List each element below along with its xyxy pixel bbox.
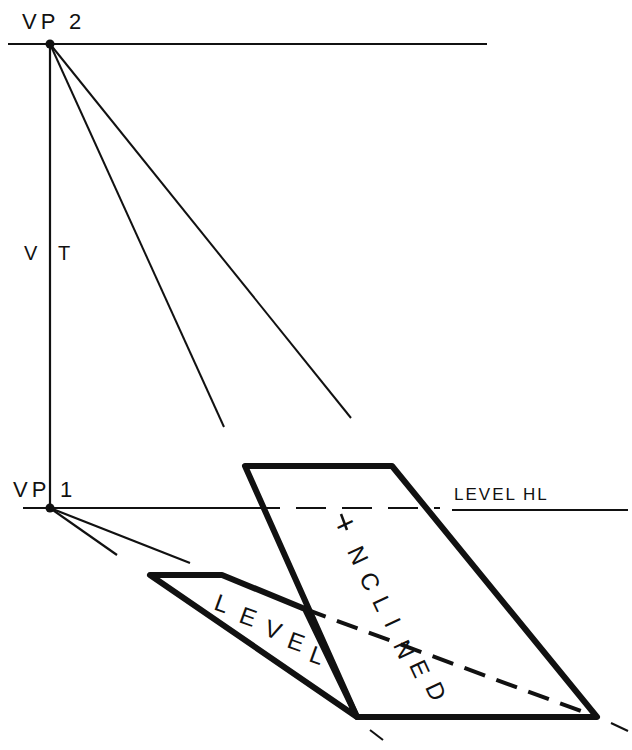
level-hl-label: LEVEL HL (454, 485, 549, 504)
vt-label-t: T (58, 242, 70, 264)
level-letter-2: E (236, 601, 260, 632)
perspective-diagram: VP 2 V T LEVEL HL VP 1 L E V E L I N C L… (0, 0, 632, 750)
vp2-ray-2 (50, 44, 351, 418)
inclined-letter-8: D (420, 678, 452, 705)
level-letter-3: V (261, 614, 285, 645)
extension-tick-left (370, 730, 383, 740)
vp1-label: VP 1 (13, 477, 76, 502)
inclined-letter-3: C (354, 568, 386, 595)
vt-label-v: V (24, 242, 38, 264)
inclined-plane-text: I N C L I N E D (332, 516, 452, 705)
inclined-letter-5: I (379, 614, 406, 631)
inclined-letter-7: E (404, 656, 435, 682)
inclined-letter-2: N (342, 542, 374, 569)
vp1-ray-2 (50, 508, 190, 563)
vp2-ray-1 (50, 44, 224, 427)
level-letter-4: E (284, 626, 308, 657)
inclined-letter-4: L (367, 592, 397, 616)
level-letter-1: L (211, 588, 233, 618)
vp2-label: VP 2 (22, 9, 85, 34)
extension-tick-right (611, 723, 628, 731)
inclined-letter-6: N (388, 636, 420, 663)
